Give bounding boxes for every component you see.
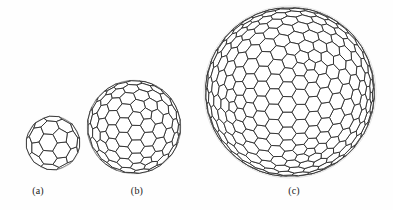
fullerene-cage-b	[85, 72, 183, 182]
fullerene-cage-c-drawing	[202, 2, 378, 184]
panel-label-c: (c)	[274, 185, 314, 196]
fullerene-cage-c	[202, 2, 378, 184]
fullerene-figure: (a) (b) (c)	[0, 0, 393, 210]
hexagon-face	[128, 125, 145, 140]
fullerene-cage-a-drawing	[24, 110, 82, 176]
fullerene-cage-b-drawing	[85, 72, 183, 182]
panel-label-b: (b)	[117, 185, 157, 196]
fullerene-cage-a	[24, 110, 82, 176]
panel-label-a: (a)	[18, 185, 58, 196]
